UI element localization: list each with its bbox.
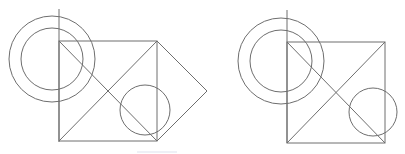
right-inner-circle — [250, 30, 312, 92]
right-outer-circle — [238, 18, 324, 104]
left-inner-circle — [21, 28, 83, 90]
right-figure — [238, 10, 397, 143]
left-small-circle — [120, 85, 170, 135]
bottom-bar — [137, 151, 177, 153]
right-small-circle — [349, 88, 397, 136]
left-outer-circle — [9, 16, 95, 102]
left-figure — [9, 9, 207, 142]
geometry-canvas — [0, 0, 405, 154]
